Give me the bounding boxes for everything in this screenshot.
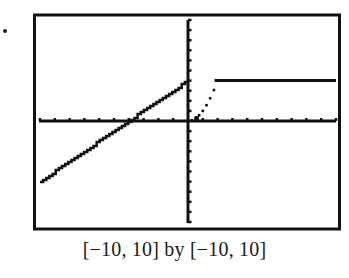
curve-dot [205, 104, 208, 107]
calculator-graph [0, 0, 349, 278]
window-caption: [−10, 10] by [−10, 10] [0, 238, 349, 261]
curve-dot [202, 110, 205, 113]
axes [39, 20, 336, 223]
curve-dot [190, 119, 193, 122]
curve-dot [209, 97, 212, 100]
curve-linear-piece [40, 82, 188, 182]
curve-dot [213, 89, 216, 92]
curve-dot [195, 116, 199, 120]
